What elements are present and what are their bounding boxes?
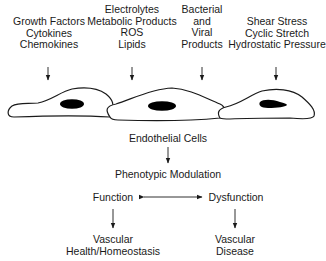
- outcome-vascular-disease: Vascular Disease: [215, 234, 255, 257]
- label-line: Lipids: [87, 39, 176, 51]
- label-line: Products: [181, 39, 222, 51]
- label-line: Bacterial: [181, 4, 222, 16]
- label-line: Hydrostatic Pressure: [228, 39, 325, 51]
- label-line: Shear Stress: [228, 16, 325, 28]
- endothelial-cells-label: Endothelial Cells: [129, 133, 207, 145]
- input-metabolic-products: Electrolytes Metabolic Products ROS Lipi…: [87, 4, 176, 50]
- label-line: Health/Homeostasis: [66, 246, 160, 258]
- label-line: Vascular: [215, 234, 255, 246]
- flow-arrows: [113, 147, 235, 228]
- label-line: Chemokines: [13, 39, 85, 51]
- label-line: ROS: [87, 27, 176, 39]
- label-line: Electrolytes: [87, 4, 176, 16]
- input-growth-factors: Growth Factors Cytokines Chemokines: [13, 16, 85, 51]
- outcome-vascular-health: Vascular Health/Homeostasis: [66, 234, 160, 257]
- nucleus-left: [60, 99, 84, 109]
- label-line: Viral: [181, 27, 222, 39]
- input-bacterial-viral: Bacterial and Viral Products: [181, 4, 222, 50]
- label-line: Growth Factors: [13, 16, 85, 28]
- cell-left: [8, 88, 113, 117]
- phenotypic-modulation-label: Phenotypic Modulation: [115, 169, 221, 181]
- nucleus-middle: [148, 101, 176, 111]
- dysfunction-label: Dysfunction: [209, 192, 264, 204]
- input-mechanical-forces: Shear Stress Cyclic Stretch Hydrostatic …: [228, 16, 325, 51]
- function-label: Function: [93, 192, 133, 204]
- label-line: Disease: [215, 246, 255, 258]
- label-line: Vascular: [66, 234, 160, 246]
- input-arrows: [48, 67, 276, 80]
